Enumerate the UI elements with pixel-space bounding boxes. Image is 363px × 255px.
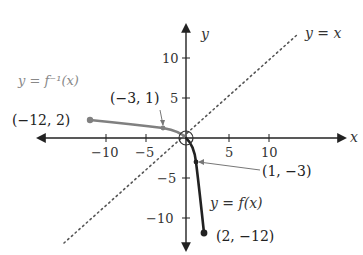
y-axis-label: y [200, 26, 210, 42]
function-endpoint [201, 230, 208, 237]
x-axis-label: x [350, 129, 358, 145]
identity-line-label: y = x [304, 25, 342, 41]
point-label-2-neg12: (2, −12) [216, 228, 274, 244]
function-curve-label: y = f(x) [209, 195, 263, 211]
pointer-neg3-1-arrowhead [160, 120, 165, 126]
graph-canvas: −10 −5 5 10 10 5 −5 −10 x y y = x y = f⁻… [0, 0, 363, 255]
function-curve [186, 138, 204, 233]
tick-x-neg10: −10 [91, 145, 118, 160]
tick-x-5: 5 [225, 145, 233, 160]
tick-x-neg5: −5 [135, 145, 154, 160]
point-label-neg3-1: (−3, 1) [110, 90, 159, 106]
inverse-point-neg3-1 [161, 126, 166, 131]
function-point-1-neg3 [194, 160, 199, 165]
inverse-curve [90, 120, 186, 138]
inverse-curve-label: y = f⁻¹(x) [17, 73, 79, 88]
pointer-1-neg3 [199, 162, 260, 170]
inverse-endpoint [87, 117, 93, 123]
tick-x-10: 10 [261, 145, 278, 160]
tick-y-neg5: −5 [157, 171, 176, 186]
tick-y-neg10: −10 [146, 211, 173, 226]
point-label-1-neg3: (1, −3) [262, 163, 311, 179]
pointer-1-neg3-arrowhead [198, 159, 204, 165]
tick-y-5: 5 [170, 91, 178, 106]
tick-y-10: 10 [162, 51, 179, 66]
point-label-neg12-2: (−12, 2) [12, 112, 70, 128]
